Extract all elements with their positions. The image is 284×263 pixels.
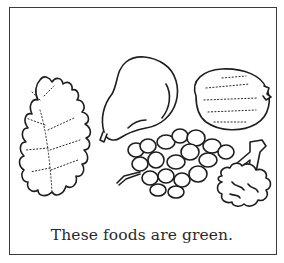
lettuce-leaf-icon [20, 77, 91, 196]
grapes-icon [117, 129, 234, 198]
illustrations [0, 0, 284, 263]
lime-icon [195, 69, 271, 130]
caption-text: These foods are green. [0, 226, 284, 244]
pear-icon [100, 57, 178, 142]
